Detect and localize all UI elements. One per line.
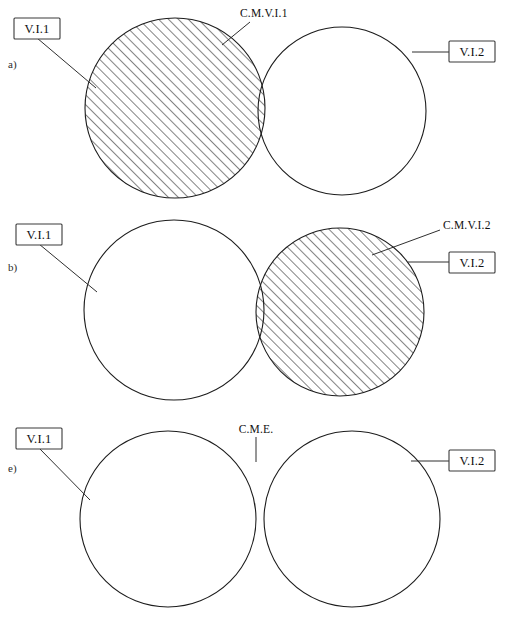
panel-c-left-circle: [80, 431, 256, 607]
panel-c-shaded-intersection: [230, 425, 290, 615]
panel-b-shaded-right-circle: [250, 222, 435, 407]
venn-figure: a) V.I.1 V.I.2 C.M.V.I.1 b): [0, 0, 509, 622]
venn-diagram-canvas: a) V.I.1 V.I.2 C.M.V.I.1 b): [0, 0, 509, 622]
panel-b-left-leader-line: [39, 244, 97, 292]
panel-b-letter: b): [8, 261, 18, 274]
panel-c: e) V.I.1 V.I.2 C.M.E.: [8, 423, 495, 615]
panel-c-right-circle: [264, 431, 440, 607]
panel-c-right-label-text: V.I.2: [459, 454, 484, 468]
panel-a-callout-label: C.M.V.I.1: [240, 7, 288, 19]
panel-a-letter: a): [8, 58, 17, 71]
panel-b-right-label-text: V.I.2: [459, 256, 484, 270]
panel-a-right-label-text: V.I.2: [459, 45, 484, 59]
panel-c-callout-label: C.M.E.: [239, 423, 274, 435]
panel-b-left-label-text: V.I.1: [26, 228, 51, 242]
panel-a-left-label-text: V.I.1: [24, 22, 49, 36]
panel-c-left-leader-line: [39, 448, 90, 500]
panel-b-left-circle: [84, 220, 264, 400]
panel-c-letter: e): [8, 462, 17, 475]
panel-a-shaded-left-circle: [80, 12, 275, 207]
panel-a: a) V.I.1 V.I.2 C.M.V.I.1: [8, 7, 495, 207]
panel-b-callout-label: C.M.V.I.2: [443, 219, 491, 231]
panel-a-right-circle: [258, 27, 426, 195]
panel-a-left-leader-line: [37, 38, 96, 88]
panel-c-left-label-text: V.I.1: [26, 432, 51, 446]
panel-b: b) V.I.1 V.I.2 C.M.V.I.2: [8, 219, 495, 407]
